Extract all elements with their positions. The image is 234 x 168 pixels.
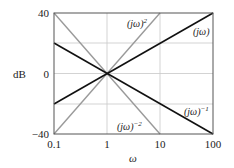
ytick-0: 0 xyxy=(44,68,50,80)
annotation-jw-squared: (jω)2 xyxy=(127,17,148,30)
bode-plot: 40 0 −40 dB 0.1 1 10 100 ω (jω)2 (jω) (j… xyxy=(0,0,234,168)
annotation-jw-inv: (jω)−1 xyxy=(184,105,209,118)
x-axis-label: ω xyxy=(129,152,137,164)
xtick-0.1: 0.1 xyxy=(47,138,61,150)
xtick-1: 1 xyxy=(104,138,110,150)
annotation-jw: (jω) xyxy=(193,26,210,38)
y-axis-label: dB xyxy=(13,68,26,80)
xtick-10: 10 xyxy=(155,138,167,150)
xtick-100: 100 xyxy=(205,138,222,150)
ytick-40: 40 xyxy=(38,7,50,19)
annotation-jw-inv-squared: (jω)−2 xyxy=(117,120,142,133)
